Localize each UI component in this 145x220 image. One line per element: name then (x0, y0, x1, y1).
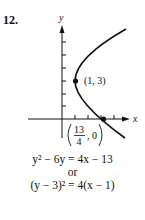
equation-standard: (y − 3)² = 4(x − 1) (0, 179, 145, 191)
x-intercept-label: 13 4 , 0 (68, 124, 102, 147)
vertex-label: (1, 3) (84, 75, 106, 87)
x-ticks (75, 115, 114, 119)
vertex-point (73, 78, 78, 83)
y-axis-arrow-icon (60, 25, 65, 33)
x-axis-label: x (132, 113, 138, 124)
y-axis-label: y (58, 12, 64, 23)
x-intercept-point (101, 116, 106, 121)
svg-text:13: 13 (74, 124, 84, 135)
equation-or: or (0, 166, 145, 178)
equation-expanded: y² − 6y = 4x − 13 (0, 153, 145, 165)
y-ticks (62, 42, 66, 106)
svg-text:, 0: , 0 (87, 130, 97, 141)
svg-text:4: 4 (77, 136, 82, 147)
x-axis-arrow-icon (122, 117, 130, 122)
